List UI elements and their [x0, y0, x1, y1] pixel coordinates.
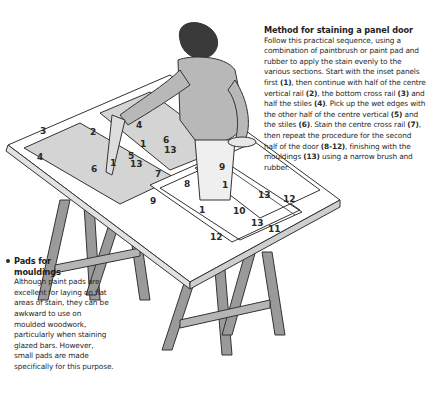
- label-inset-panel-c: 1: [222, 180, 228, 190]
- label-centre-cross-rail: 7: [155, 169, 161, 179]
- pads-text-block: Pads formouldings Although paint pads ar…: [14, 256, 114, 373]
- label-moulding-b: 13: [130, 159, 143, 169]
- label-moulding-a: 13: [164, 145, 177, 155]
- label-stile-half-b: 4: [37, 152, 43, 162]
- label-stile-half-a: 4: [136, 120, 142, 130]
- label-moulding-c: 13: [258, 190, 271, 200]
- label-inset-panel-a: 1: [140, 139, 146, 149]
- method-title: Method for staining a panel door: [264, 25, 426, 36]
- label-inset-panel-d: 1: [199, 205, 205, 215]
- label-rail-second-b: 12: [210, 232, 223, 242]
- label-bottom-rail: 3: [40, 126, 46, 136]
- method-body: Follow this practical sequence, using a …: [264, 36, 426, 174]
- pads-body: Although paint pads are excellent for la…: [14, 277, 114, 372]
- bullet-icon: [6, 259, 10, 263]
- method-text-block: Method for staining a panel door Follow …: [264, 25, 426, 173]
- label-stile-other-b: 6: [91, 164, 97, 174]
- label-stile-second-c: 10: [233, 206, 246, 216]
- label-centre-vertical-second: 8: [184, 179, 190, 189]
- label-centre-vertical-half: 2: [90, 127, 96, 137]
- label-inset-panel-b: 1: [110, 158, 116, 168]
- label-stile-second-b: 9: [150, 196, 156, 206]
- label-rail-second-a: 12: [283, 194, 296, 204]
- label-stile-second-d: 11: [268, 224, 281, 234]
- pads-title: Pads formouldings: [14, 256, 114, 277]
- label-stile-second-a: 9: [219, 162, 225, 172]
- label-stile-other-a: 6: [163, 135, 169, 145]
- label-moulding-d: 13: [251, 218, 264, 228]
